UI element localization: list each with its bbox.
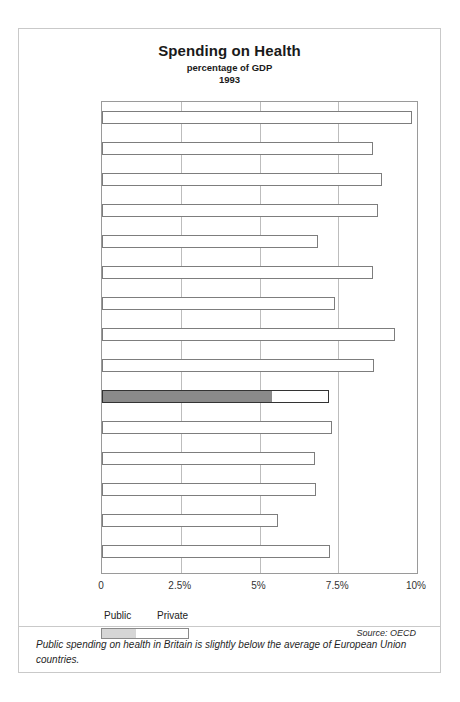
bar-wrapper	[102, 142, 373, 155]
bar-spain	[102, 421, 332, 434]
bar-greece	[102, 514, 278, 527]
legend-private-label: Private	[157, 610, 188, 621]
bar-wrapper	[102, 514, 278, 527]
x-tick-label: 10%	[406, 580, 426, 591]
category-label-germany: Germany	[0, 357, 87, 372]
bar-denmark	[102, 452, 315, 465]
category-label-portugal: Portugal	[0, 543, 87, 558]
bar-ireland	[102, 483, 316, 496]
bar-row: France	[102, 102, 417, 133]
bar-row: Belgium	[102, 133, 417, 164]
x-tick-label: 0	[98, 580, 104, 591]
bar-wrapper	[102, 111, 412, 124]
bar-wrapper	[102, 235, 318, 248]
bar-row: Luxembourg	[102, 226, 417, 257]
category-label-denmark: Denmark	[0, 450, 87, 465]
bar-wrapper	[102, 173, 382, 186]
category-label-finland: Finland	[0, 171, 87, 186]
plot-area: FranceBelgiumFinlandNetherlandsLuxembour…	[101, 101, 418, 574]
bar-belgium	[102, 142, 373, 155]
bar-britain	[102, 390, 329, 403]
category-label-luxembourg: Luxembourg	[0, 233, 87, 248]
bar-row: Austria	[102, 319, 417, 350]
bar-wrapper	[102, 266, 373, 279]
footnote-separator	[19, 626, 440, 627]
category-label-spain: Spain	[0, 419, 87, 434]
category-label-italy: Italy	[0, 264, 87, 279]
chart-subtitle: percentage of GDP	[19, 61, 440, 74]
bar-row: Germany	[102, 350, 417, 381]
bar-wrapper	[102, 421, 332, 434]
bar-wrapper	[102, 545, 330, 558]
title-block: Spending on Health percentage of GDP 199…	[19, 29, 440, 86]
bar-wrapper	[102, 359, 374, 372]
category-label-britain: Britain	[0, 388, 87, 403]
bar-wrapper	[102, 390, 329, 403]
bar-germany	[102, 359, 374, 372]
bar-wrapper	[102, 483, 316, 496]
chart-card: Spending on Health percentage of GDP 199…	[18, 28, 441, 673]
chart-title: Spending on Health	[19, 42, 440, 60]
bar-wrapper	[102, 452, 315, 465]
legend-labels: Public Private	[101, 610, 416, 625]
category-label-france: France	[0, 109, 87, 124]
x-axis: 02.5%5%7.5%10%	[101, 580, 416, 596]
bar-row: Finland	[102, 164, 417, 195]
bar-row: Italy	[102, 257, 417, 288]
bar-austria	[102, 328, 395, 341]
bar-portugal	[102, 545, 330, 558]
bar-france	[102, 111, 412, 124]
category-label-belgium: Belgium	[0, 140, 87, 155]
footnote-text: Public spending on health in Britain is …	[36, 637, 422, 667]
bar-sweden	[102, 297, 335, 310]
x-tick-label: 7.5%	[326, 580, 349, 591]
bar-netherlands	[102, 204, 378, 217]
legend: Public Private Source: OECD	[101, 610, 416, 625]
bar-rows: FranceBelgiumFinlandNetherlandsLuxembour…	[102, 102, 417, 567]
category-label-ireland: Ireland	[0, 481, 87, 496]
bar-finland	[102, 173, 382, 186]
bar-luxembourg	[102, 235, 318, 248]
bar-row: Portugal	[102, 536, 417, 567]
bar-row: Netherlands	[102, 195, 417, 226]
category-label-netherlands: Netherlands	[0, 202, 87, 217]
chart-year: 1993	[19, 74, 440, 86]
legend-public-label: Public	[104, 610, 131, 621]
bar-wrapper	[102, 297, 335, 310]
bar-row: Spain	[102, 412, 417, 443]
category-label-greece: Greece	[0, 512, 87, 527]
x-tick-label: 2.5%	[168, 580, 191, 591]
bar-wrapper	[102, 328, 395, 341]
bar-row: Sweden	[102, 288, 417, 319]
chart-area: FranceBelgiumFinlandNetherlandsLuxembour…	[19, 99, 442, 579]
bar-wrapper	[102, 204, 378, 217]
bar-row: Denmark	[102, 443, 417, 474]
bar-row: Ireland	[102, 474, 417, 505]
bar-segment-private	[272, 391, 328, 402]
bar-row: Greece	[102, 505, 417, 536]
category-label-austria: Austria	[0, 326, 87, 341]
bar-segment-public	[103, 391, 272, 402]
x-tick-label: 5%	[251, 580, 265, 591]
bar-italy	[102, 266, 373, 279]
category-label-sweden: Sweden	[0, 295, 87, 310]
bar-row: Britain	[102, 381, 417, 412]
